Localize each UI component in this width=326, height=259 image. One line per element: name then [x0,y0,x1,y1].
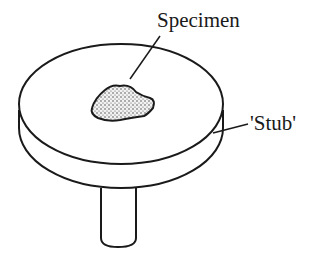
stub-pin [101,188,136,247]
sem-stub-diagram: Specimen 'Stub' [0,0,326,259]
stub-label: 'Stub' [250,113,296,134]
specimen-label: Specimen [157,10,240,31]
